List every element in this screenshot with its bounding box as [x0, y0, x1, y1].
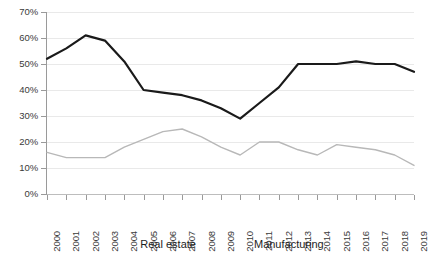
legend-label-manufacturing: Manufacturing: [254, 238, 324, 250]
series-line-real-estate: [47, 35, 414, 118]
legend-item-manufacturing: Manufacturing: [218, 238, 324, 250]
line-chart: 0%10%20%30%40%50%60%70% 2000200120022003…: [0, 0, 428, 265]
chart-legend: Real estate Manufacturing: [0, 238, 428, 250]
series-line-manufacturing: [47, 129, 414, 165]
series-container: [0, 0, 428, 265]
legend-label-real-estate: Real estate: [140, 238, 196, 250]
legend-item-real-estate: Real estate: [104, 238, 196, 250]
